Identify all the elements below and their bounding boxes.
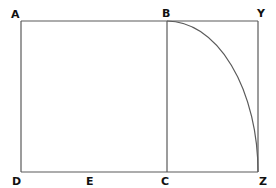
arc-BZ [167, 21, 258, 172]
label-Z: Z [259, 176, 267, 187]
label-A: A [11, 9, 20, 20]
label-E: E [86, 176, 94, 187]
geometry-diagram [0, 0, 276, 188]
label-C: C [161, 176, 169, 187]
label-Y: Y [257, 8, 265, 19]
label-B: B [162, 8, 170, 19]
label-D: D [12, 176, 21, 187]
